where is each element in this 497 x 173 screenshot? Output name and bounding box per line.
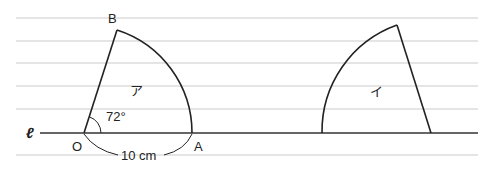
angle-marker <box>89 117 101 133</box>
line-label: ℓ <box>26 124 34 141</box>
sector-diagram: ℓ O A B 72° 10 cm ア イ <box>0 0 497 173</box>
sector-i-label: イ <box>370 84 383 99</box>
ruled-lines <box>16 18 478 155</box>
sector-a-label: ア <box>130 83 143 98</box>
sector-a <box>84 30 192 133</box>
angle-label: 72° <box>106 109 126 124</box>
point-o-label: O <box>72 139 82 154</box>
point-b-label: B <box>108 11 117 26</box>
point-a-label: A <box>194 139 203 154</box>
radius-label: 10 cm <box>121 148 156 163</box>
